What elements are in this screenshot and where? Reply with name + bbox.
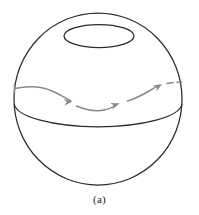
transport-path-segment-2 (77, 105, 118, 111)
figure-caption: (a) (0, 193, 199, 206)
sphere-figure-svg (0, 0, 199, 215)
equator-front-arc (14, 104, 182, 127)
arrowhead-2 (110, 103, 119, 110)
sphere-outline (14, 13, 182, 185)
transport-path-dashed-tail (167, 82, 182, 84)
figure-panel: (a) (0, 0, 199, 215)
upper-latitude-circle (64, 25, 134, 48)
